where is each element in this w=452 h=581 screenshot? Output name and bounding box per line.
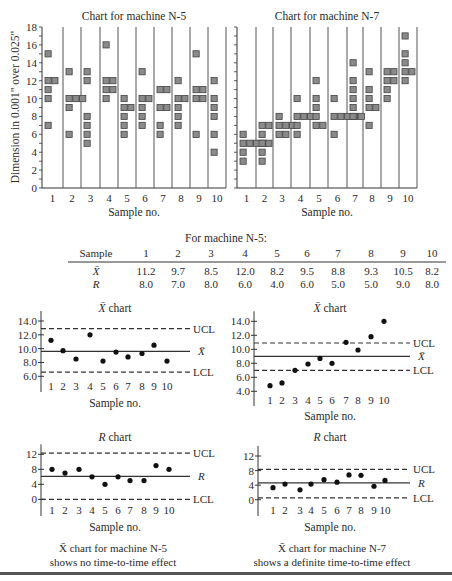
x-tick-label: 3 [292, 394, 298, 406]
data-marker [294, 131, 300, 137]
data-marker [266, 122, 272, 128]
data-marker [164, 104, 170, 110]
x-tick-label: 1 [270, 504, 276, 516]
x-tick-label: 6 [113, 380, 119, 392]
data-marker [45, 78, 51, 84]
data-marker [110, 78, 116, 84]
data-marker [350, 104, 356, 110]
data-marker [66, 95, 72, 101]
data-point [329, 361, 334, 366]
table-cell: 11.2 [137, 265, 156, 277]
data-point [382, 478, 387, 483]
data-marker [211, 104, 217, 110]
x-tick-label: 3 [73, 380, 79, 392]
lcl-line-label: LCL [193, 493, 214, 505]
table-header-cell: 8 [368, 247, 374, 259]
x-tick-label: 5 [317, 394, 323, 406]
table-cell: 9.5 [300, 265, 314, 277]
center-line-label: R [417, 477, 425, 489]
data-marker [157, 122, 163, 128]
scatter-chart-n7: Chart for machine N-712345678910Sample n… [234, 10, 417, 219]
data-marker [247, 140, 253, 146]
y-tick-label: 10.0 [231, 343, 251, 355]
table-cell: 8.5 [204, 265, 218, 277]
x-tick-label: 10 [164, 504, 176, 516]
data-point [317, 356, 322, 361]
data-point [267, 383, 272, 388]
x-tick-label: 9 [371, 504, 377, 516]
data-marker [259, 131, 265, 137]
x-tick-label: 6 [329, 394, 335, 406]
data-marker [84, 140, 90, 146]
x-tick-label: 7 [343, 394, 349, 406]
table-cell: 9.7 [171, 265, 185, 277]
table-row-label: X̄ [92, 265, 101, 277]
data-marker [193, 95, 199, 101]
x-tick-label: 8 [355, 394, 361, 406]
y-tick-label: 12.0 [231, 329, 251, 341]
chart-title: X̄ chart [313, 302, 348, 314]
data-marker [175, 104, 181, 110]
x-axis-label: Sample no. [304, 410, 356, 423]
x-tick-label: 7 [125, 380, 131, 392]
data-marker [331, 131, 337, 137]
data-marker [139, 69, 145, 75]
x-axis-label: Sample no. [301, 206, 353, 219]
x-axis-label: Sample no. [108, 206, 160, 219]
data-point [100, 358, 105, 363]
x-tick-label: 9 [368, 394, 374, 406]
table-cell: 5.0 [364, 278, 378, 290]
x-tick-label: 1 [244, 192, 250, 204]
table-cell: 12.0 [235, 265, 255, 277]
caption-n7-line2: shows a definite time-to-time effect [254, 556, 411, 568]
table-header-cell: 2 [175, 247, 181, 259]
y-tick-label: 10.0 [18, 343, 38, 355]
table-cell: 9.3 [364, 265, 378, 277]
r-chart-n7: R chart04812UCLRLCL12345678910Sample no. [243, 431, 435, 534]
data-marker [164, 87, 170, 93]
data-marker [84, 78, 90, 84]
data-marker [139, 113, 145, 119]
x-tick-label: 9 [151, 380, 157, 392]
x-tick-label: 9 [196, 192, 202, 204]
data-marker [240, 158, 246, 164]
data-marker [259, 122, 265, 128]
chart-title: R chart [313, 431, 348, 443]
x-tick-label: 1 [50, 192, 56, 204]
x-tick-label: 3 [297, 504, 303, 516]
data-marker [175, 122, 181, 128]
x-tick-label: 4 [87, 380, 93, 392]
chart-title: R chart [98, 431, 133, 443]
lcl-line-label: LCL [413, 364, 434, 376]
table-header-cell: 10 [427, 247, 439, 259]
y-tick-label: 6.0 [23, 370, 37, 382]
data-point [48, 338, 53, 343]
data-marker [366, 104, 372, 110]
data-marker [84, 122, 90, 128]
center-line-label: X̄ [197, 345, 206, 357]
y-tick-label: 14.0 [231, 315, 251, 327]
data-marker [283, 122, 289, 128]
data-marker [139, 95, 145, 101]
data-marker [391, 69, 397, 75]
table-cell: 8.0 [425, 278, 439, 290]
data-point [343, 340, 348, 345]
data-marker [175, 78, 181, 84]
data-point [139, 351, 144, 356]
y-tick-label: 6.0 [236, 371, 250, 383]
data-marker [358, 113, 364, 119]
table-cell: 8.8 [331, 265, 345, 277]
data-marker [266, 140, 272, 146]
data-marker [45, 95, 51, 101]
y-tick-label: 0 [32, 182, 38, 194]
data-marker [283, 131, 289, 137]
data-marker [313, 104, 319, 110]
ucl-line-label: UCL [413, 463, 435, 475]
data-marker [313, 122, 319, 128]
y-tick-label: 8 [249, 465, 255, 477]
data-point [358, 473, 363, 478]
data-marker [84, 113, 90, 119]
y-tick-label: 4.0 [236, 385, 250, 397]
x-tick-label: 6 [334, 504, 340, 516]
table-header-cell: 1 [143, 247, 149, 259]
